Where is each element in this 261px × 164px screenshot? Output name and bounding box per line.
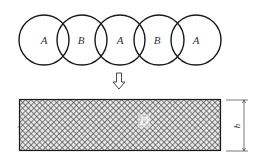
circle-b-2: B [134, 15, 184, 65]
right-edge-mark: ‹ [219, 123, 221, 129]
dimension-label: h [232, 123, 242, 128]
circle-label: B [154, 34, 161, 46]
overlap-to-layer-diagram: A B A B A D › ‹ h [0, 0, 261, 164]
left-edge-mark: › [17, 123, 19, 129]
circle-a-3: A [171, 15, 221, 65]
layer-label: D [139, 114, 149, 128]
hatched-layer: D › ‹ [17, 100, 221, 151]
circle-label: B [78, 34, 85, 46]
circle-label: A [192, 34, 200, 46]
circle-a-1: A [19, 15, 69, 65]
circle-label: A [116, 34, 124, 46]
down-arrow-icon [113, 73, 125, 89]
circle-label: A [40, 34, 48, 46]
circle-row: A B A B A [19, 15, 221, 65]
height-dimension: h [226, 100, 248, 151]
circle-a-2: A [95, 15, 145, 65]
circle-b-1: B [57, 15, 107, 65]
